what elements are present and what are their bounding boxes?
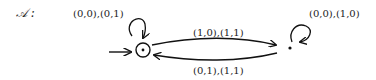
self-loop-q0	[129, 19, 145, 38]
state-q0	[136, 43, 150, 57]
edge-q0-q1	[152, 38, 276, 45]
label-q0-q1: (1,0),(1,1)	[193, 27, 244, 38]
state-q0-dot	[142, 49, 145, 52]
automaton-diagram: 𝒜 : (0,0),(0,1) (1,0),(1,1) (0,1),(1,1) …	[0, 0, 376, 80]
self-loop-q1	[291, 25, 310, 42]
label-q0-q0: (0,0),(0,1)	[73, 8, 124, 19]
label-q1-q0: (0,1),(1,1)	[193, 65, 244, 76]
state-q1	[288, 46, 291, 49]
label-q1-q1: (0,0),(1,0)	[309, 8, 360, 19]
edge-q1-q0	[154, 53, 277, 60]
automaton-name: 𝒜 :	[16, 6, 35, 20]
